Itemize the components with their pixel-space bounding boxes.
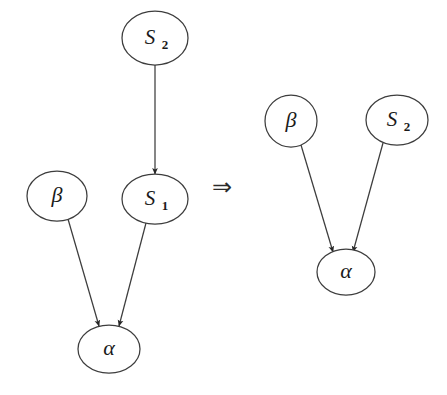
node-sublabel-s2-left: 2 (162, 37, 169, 52)
node-label-beta-right: β (285, 107, 297, 132)
node-s1[interactable]: S 1 (122, 174, 188, 224)
node-beta-right[interactable]: β (265, 95, 317, 147)
edge-beta-to-alpha-right (301, 145, 333, 252)
diagram-canvas: S 2 S 1 β α ⇒ (0, 0, 447, 395)
node-sublabel-s2-right: 2 (404, 119, 411, 134)
graph-rewrite-diagram: S 2 S 1 β α ⇒ (0, 0, 447, 395)
node-alpha-right[interactable]: α (317, 249, 375, 295)
node-label-beta-left: β (51, 182, 63, 207)
edge-beta-to-alpha-left (68, 219, 99, 326)
left-graph: S 2 S 1 β α (27, 11, 188, 373)
node-label-s2-left: S (145, 25, 156, 49)
edge-s2-to-alpha-right (353, 143, 383, 252)
node-label-s2-right: S (387, 107, 398, 131)
edge-s1-to-alpha (119, 223, 146, 326)
node-alpha-left[interactable]: α (78, 325, 140, 373)
right-graph: β S 2 α (265, 95, 428, 295)
node-beta-left[interactable]: β (27, 171, 87, 221)
node-label-alpha-left: α (103, 335, 115, 360)
node-s2-right[interactable]: S 2 (366, 95, 428, 145)
implies-operator-icon: ⇒ (212, 173, 232, 201)
node-s2-left[interactable]: S 2 (122, 11, 188, 65)
node-sublabel-s1: 1 (162, 198, 169, 213)
node-label-alpha-right: α (340, 258, 352, 283)
node-label-s1: S (145, 186, 156, 210)
